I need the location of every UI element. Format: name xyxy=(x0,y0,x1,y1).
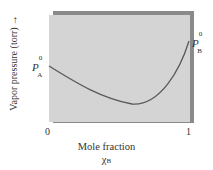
x-axis-symbol: χB xyxy=(0,154,213,165)
x-tick-0: 0 xyxy=(45,126,50,137)
y-axis-label: Vapor pressure (torr)→ xyxy=(8,8,22,118)
x-tick-1: 1 xyxy=(186,126,191,137)
pa0-label: P0A xyxy=(32,60,47,76)
x-axis-label: Mole fraction xyxy=(0,141,213,152)
plot-area xyxy=(49,15,190,122)
pb0-label: P0B xyxy=(192,36,207,52)
